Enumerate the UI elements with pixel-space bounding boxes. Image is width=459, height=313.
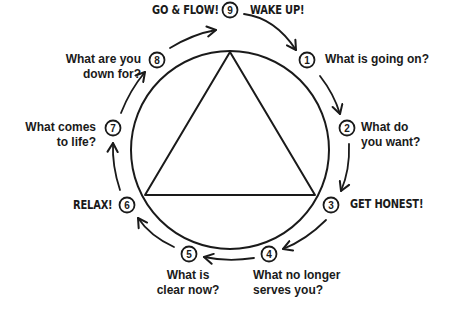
label-step-3: GET HONEST! — [350, 197, 423, 212]
step-marker-1: 1 — [300, 53, 315, 68]
step-number: 3 — [328, 200, 334, 211]
arrow-6-to-7 — [113, 143, 120, 190]
label-step-6: RELAX! — [73, 198, 112, 213]
step-number: 1 — [304, 55, 310, 66]
step-marker-4: 4 — [262, 247, 277, 262]
arrow-1-to-2 — [320, 76, 340, 114]
step-marker-7: 7 — [106, 121, 121, 136]
main-circle — [131, 51, 329, 249]
step-marker-2: 2 — [340, 121, 355, 136]
step-marker-8: 8 — [150, 53, 165, 68]
inner-triangle — [145, 52, 315, 195]
label-step-7: What comes to life? — [0, 120, 96, 150]
label-step-8: What are you down for? — [0, 52, 141, 82]
label-go-and-flow: GO & FLOW! — [152, 3, 219, 18]
label-step-5: What is clear now? — [137, 268, 239, 298]
arrow-2-to-3 — [341, 144, 349, 191]
arrow-3-to-4 — [283, 220, 326, 249]
step-number: 7 — [110, 123, 116, 134]
step-markers: 123456789 — [106, 3, 355, 262]
arrow-4-to-5 — [204, 257, 254, 260]
label-step-4: What no longer serves you? — [253, 268, 340, 298]
label-step-2: What do you want? — [361, 120, 420, 150]
step-number: 6 — [124, 200, 130, 211]
step-marker-3: 3 — [324, 198, 339, 213]
label-step-1: What is going on? — [325, 52, 429, 67]
step-number: 9 — [227, 5, 233, 16]
arrow-8-to-9 — [170, 30, 216, 48]
step-number: 2 — [344, 123, 350, 134]
arrow-5-to-6 — [138, 218, 174, 247]
step-number: 8 — [154, 55, 160, 66]
arrow-9-to-1 — [244, 14, 296, 50]
label-wake-up: WAKE UP! — [250, 3, 304, 18]
step-marker-6: 6 — [120, 198, 135, 213]
step-marker-9: 9 — [223, 3, 238, 18]
cycle-diagram: 123456789 — [0, 0, 459, 313]
step-number: 4 — [266, 249, 272, 260]
step-marker-5: 5 — [182, 247, 197, 262]
step-number: 5 — [186, 249, 192, 260]
